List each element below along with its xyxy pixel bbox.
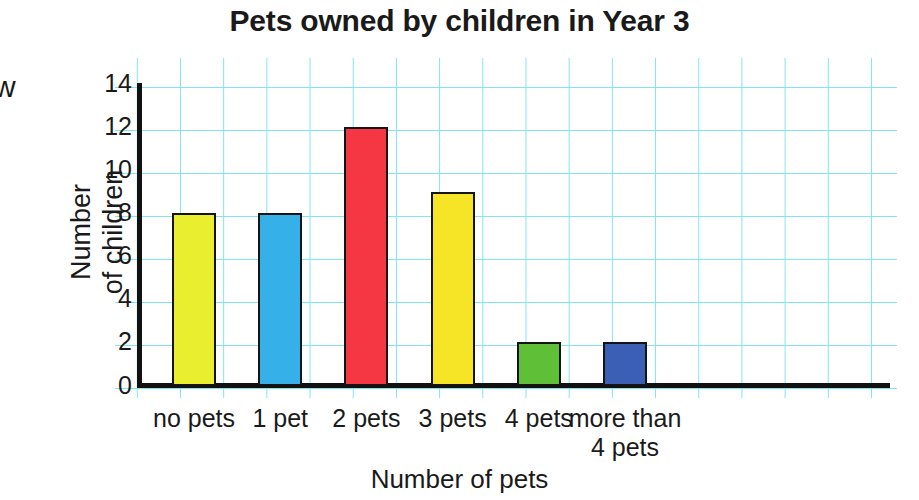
page-edge-text-fragment: w bbox=[0, 70, 16, 104]
x-tick-label: more than 4 pets bbox=[555, 404, 695, 462]
plot-area: 02468101214 w Number of children no pets… bbox=[0, 0, 919, 500]
y-axis-line bbox=[137, 83, 142, 388]
x-axis-title: Number of pets bbox=[0, 464, 919, 495]
bar bbox=[603, 342, 647, 386]
x-axis-line bbox=[137, 383, 890, 388]
bar bbox=[258, 213, 302, 386]
y-tick-0: 0 bbox=[92, 373, 132, 398]
bar bbox=[172, 213, 216, 386]
bar bbox=[344, 127, 388, 386]
y-tick-14: 14 bbox=[92, 71, 132, 96]
bar bbox=[517, 342, 561, 386]
bar bbox=[431, 192, 475, 387]
y-axis-title: Number of children bbox=[65, 102, 129, 362]
chart-canvas: Pets owned by children in Year 3 0246810… bbox=[0, 0, 919, 500]
